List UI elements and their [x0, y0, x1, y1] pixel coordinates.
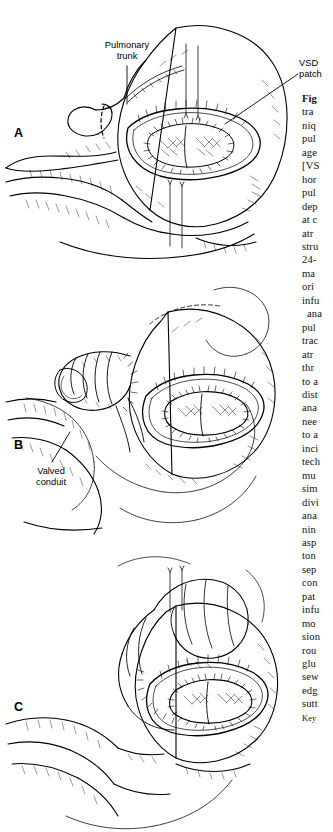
caption-line: rou	[302, 644, 333, 657]
caption-line: tech	[302, 455, 333, 468]
caption-line: pul	[302, 186, 333, 199]
leader-vsd-patch	[225, 74, 298, 124]
caption-line: at c	[302, 213, 333, 226]
caption-line: glu	[302, 657, 333, 670]
caption-line: sion	[302, 630, 333, 643]
caption-line: ana	[302, 401, 333, 414]
caption-line: age	[302, 146, 333, 159]
caption-line: 24-	[302, 253, 333, 266]
caption-line: to a	[302, 428, 333, 441]
panel-letter-a: A	[14, 126, 23, 140]
caption-line: mo	[302, 617, 333, 630]
panel-letter-b: B	[14, 438, 23, 452]
caption-line: infu	[302, 294, 333, 307]
caption-line: inci	[302, 442, 333, 455]
figure-caption-column: Figtraniqpulage[VShorpuldepat catrstru24…	[302, 92, 333, 812]
figure-page: A B C Pulmonary trunk VSD patch Valved c…	[0, 0, 333, 832]
label-valved-conduit: Valved conduit	[18, 466, 84, 488]
caption-line: sutt	[302, 697, 333, 710]
caption-line: ma	[302, 267, 333, 280]
caption-line: con	[302, 576, 333, 589]
panel-letter-c: C	[14, 700, 23, 714]
caption-line: hor	[302, 173, 333, 186]
caption-line: niq	[302, 119, 333, 132]
caption-line: ana	[302, 509, 333, 522]
caption-line: sim	[302, 482, 333, 495]
caption-line: dep	[302, 200, 333, 213]
caption-line: pul	[302, 132, 333, 145]
figure-illustration-area: A B C Pulmonary trunk VSD patch Valved c…	[0, 0, 300, 832]
caption-line: edg	[302, 684, 333, 697]
caption-line: atr	[302, 227, 333, 240]
caption-line: trac	[302, 334, 333, 347]
caption-line: infu	[302, 603, 333, 616]
caption-line: to a	[302, 375, 333, 388]
caption-line: pat	[302, 590, 333, 603]
caption-line: [VS	[302, 159, 333, 172]
leader-valved-conduit	[52, 432, 70, 462]
caption-line: nee	[302, 415, 333, 428]
caption-line: asp	[302, 536, 333, 549]
annotation-leader-lines	[0, 0, 300, 832]
caption-line: ana	[302, 307, 333, 320]
caption-line: mu	[302, 469, 333, 482]
caption-line: ton	[302, 549, 333, 562]
caption-line: thr	[302, 361, 333, 374]
caption-line: dist	[302, 388, 333, 401]
caption-line: pul	[302, 321, 333, 334]
caption-line: sep	[302, 563, 333, 576]
caption-line: divi	[302, 496, 333, 509]
caption-line: ori	[302, 280, 333, 293]
label-pulmonary-trunk: Pulmonary trunk	[84, 40, 170, 62]
caption-line: stru	[302, 240, 333, 253]
caption-line: sew	[302, 670, 333, 683]
caption-line: atr	[302, 348, 333, 361]
label-vsd-patch: VSD patch	[299, 58, 333, 80]
caption-line: nin	[302, 523, 333, 536]
caption-line: tra	[302, 105, 333, 118]
caption-key-line: Key	[302, 711, 333, 725]
caption-line: Fig	[302, 92, 333, 105]
